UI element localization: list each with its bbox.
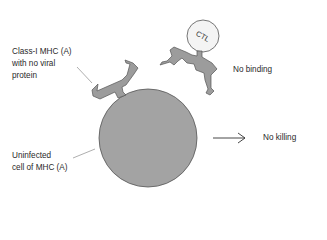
uninfected-cell bbox=[99, 89, 197, 187]
right-arrow-icon bbox=[213, 133, 245, 143]
no-killing-label: No killing bbox=[263, 133, 296, 143]
no-binding-label: No binding bbox=[233, 65, 272, 75]
mhc-leader-line bbox=[77, 67, 92, 83]
cell-leader-line bbox=[73, 149, 95, 158]
ctl-receptor bbox=[160, 47, 217, 95]
mhc-label-line2: with no viral bbox=[12, 59, 55, 69]
cell-label-line1: Uninfected bbox=[12, 151, 51, 161]
cell-label-line2: cell of MHC (A) bbox=[12, 163, 68, 173]
mhc-label-line3: protein bbox=[12, 71, 37, 81]
mhc-label-line1: Class-I MHC (A) bbox=[12, 47, 72, 57]
